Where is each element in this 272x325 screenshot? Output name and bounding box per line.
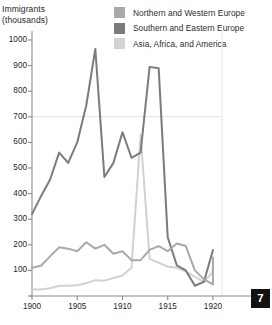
- x-tick-1915: 1915: [151, 302, 185, 311]
- plot-area: [0, 0, 272, 325]
- plot-svg: [0, 0, 272, 325]
- x-tick-1905: 1905: [60, 302, 94, 311]
- series-line-northern-and-western-europe: [32, 242, 213, 284]
- y-tick-300: 300: [1, 214, 27, 223]
- y-tick-700: 700: [1, 112, 27, 121]
- x-tick-1920: 1920: [196, 302, 230, 311]
- y-tick-600: 600: [1, 137, 27, 146]
- y-tick-1000: 1000: [1, 35, 27, 44]
- series-line-asia-africa-and-america: [32, 135, 213, 290]
- y-tick-400: 400: [1, 189, 27, 198]
- y-tick-500: 500: [1, 163, 27, 172]
- y-tick-900: 900: [1, 61, 27, 70]
- y-tick-100: 100: [1, 265, 27, 274]
- y-tick-800: 800: [1, 86, 27, 95]
- data-series: [32, 49, 213, 290]
- y-tick-200: 200: [1, 240, 27, 249]
- axis-ticks: [28, 40, 213, 300]
- x-tick-1910: 1910: [105, 302, 139, 311]
- page-number-marker: 7: [251, 289, 270, 308]
- chart-figure: Immigrants (thousands) Northern and West…: [0, 0, 272, 325]
- x-tick-1900: 1900: [15, 302, 49, 311]
